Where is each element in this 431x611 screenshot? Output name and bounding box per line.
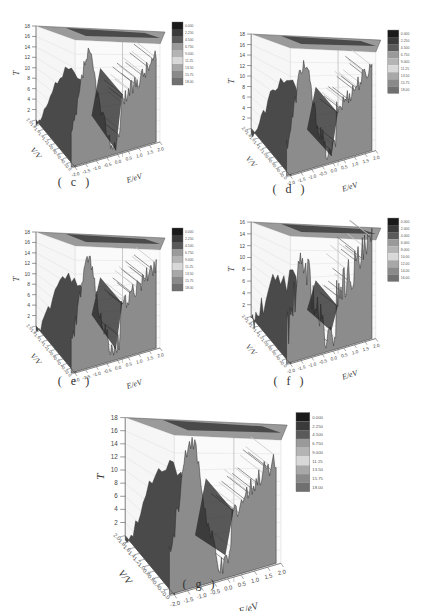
- svg-text:9.000: 9.000: [185, 258, 194, 262]
- svg-text:12: 12: [24, 54, 30, 60]
- svg-text:T: T: [11, 70, 21, 76]
- svg-text:-1.5: -1.5: [82, 168, 91, 175]
- svg-text:4: 4: [27, 302, 30, 308]
- svg-text:15.75: 15.75: [185, 73, 194, 77]
- svg-text:0.5: 0.5: [341, 352, 349, 358]
- svg-text:1.5: 1.5: [362, 158, 370, 164]
- panel-caption-e: ( e ): [50, 374, 100, 389]
- svg-text:10: 10: [240, 254, 246, 260]
- svg-text:0.0: 0.0: [115, 365, 123, 371]
- svg-text:V/V: V/V: [28, 352, 43, 368]
- svg-text:2.0: 2.0: [157, 352, 165, 358]
- svg-text:13.50: 13.50: [312, 467, 323, 472]
- surface-plot-d: 24681012141618T-2.0-1.5-1.0-0.50.00.51.0…: [215, 20, 431, 202]
- svg-text:-1.0: -1.0: [196, 592, 207, 600]
- svg-text:8.000: 8.000: [401, 248, 410, 252]
- svg-text:11.25: 11.25: [312, 459, 323, 464]
- svg-text:2: 2: [27, 313, 30, 319]
- svg-text:1.5: 1.5: [146, 149, 154, 155]
- svg-text:13.50: 13.50: [401, 74, 410, 78]
- svg-text:2.0: 2.0: [277, 569, 286, 577]
- svg-text:6.750: 6.750: [185, 45, 194, 49]
- svg-text:0.0: 0.0: [330, 355, 338, 361]
- svg-text:10: 10: [24, 271, 30, 277]
- svg-text:12: 12: [111, 453, 118, 460]
- svg-text:V/V: V/V: [244, 154, 259, 170]
- svg-text:18: 18: [240, 31, 246, 37]
- chart-panel-g: 24681012141618T-2.0-1.5-1.0-0.50.00.51.0…: [80, 400, 350, 580]
- svg-text:9.000: 9.000: [312, 450, 323, 455]
- svg-text:12.00: 12.00: [401, 262, 410, 266]
- svg-text:12: 12: [240, 243, 246, 249]
- svg-text:16: 16: [111, 427, 118, 434]
- svg-text:2.0: 2.0: [373, 343, 381, 349]
- svg-text:14: 14: [240, 231, 246, 237]
- svg-text:10: 10: [240, 73, 246, 79]
- svg-text:12: 12: [240, 63, 246, 69]
- svg-text:4.500: 4.500: [185, 38, 194, 42]
- svg-text:10: 10: [111, 466, 118, 473]
- svg-text:4: 4: [114, 505, 118, 512]
- colorbar-legend: 0.0002.2504.5006.7509.00011.2513.5015.75…: [296, 413, 324, 492]
- svg-text:16: 16: [240, 219, 246, 225]
- svg-text:4.000: 4.000: [401, 234, 410, 238]
- svg-text:6.750: 6.750: [312, 441, 323, 446]
- svg-text:1.0: 1.0: [251, 576, 260, 584]
- svg-text:-0.5: -0.5: [319, 170, 328, 177]
- svg-text:6: 6: [242, 278, 245, 284]
- svg-text:4: 4: [27, 96, 30, 102]
- chart-panel-e: 24681012141618T-2.0-1.5-1.0-0.50.00.51.0…: [0, 218, 215, 398]
- svg-text:18: 18: [24, 229, 30, 235]
- svg-text:0.5: 0.5: [125, 155, 133, 161]
- svg-text:-0.5: -0.5: [103, 368, 112, 375]
- svg-text:-1.0: -1.0: [93, 165, 102, 172]
- svg-text:0.0: 0.0: [224, 584, 233, 592]
- svg-text:8: 8: [242, 84, 245, 90]
- chart-panel-d: 24681012141618T-2.0-1.5-1.0-0.50.00.51.0…: [215, 20, 431, 202]
- svg-text:8: 8: [114, 479, 118, 486]
- svg-text:14: 14: [24, 44, 30, 50]
- svg-text:15.75: 15.75: [312, 476, 323, 481]
- svg-text:1.0: 1.0: [351, 349, 359, 355]
- svg-text:1.5: 1.5: [362, 346, 370, 352]
- svg-text:-2.0: -2.0: [170, 600, 181, 608]
- panel-caption-c: ( c ): [50, 175, 100, 190]
- colorbar-legend: 0.0002.2504.5006.7509.00011.2513.5015.75…: [172, 22, 194, 85]
- svg-text:11.25: 11.25: [401, 67, 409, 71]
- surface-plot-g: 24681012141618T-2.0-1.5-1.0-0.50.00.51.0…: [80, 400, 350, 580]
- svg-text:14: 14: [111, 440, 118, 447]
- panel-caption-f: ( f ): [265, 374, 315, 389]
- svg-text:-0.5: -0.5: [103, 162, 112, 169]
- svg-text:T: T: [226, 78, 236, 84]
- svg-text:8: 8: [27, 75, 30, 81]
- panel-caption-g: ( g ): [175, 577, 225, 592]
- colorbar-legend: 0.0002.2504.5006.7509.00011.2513.5015.75…: [172, 228, 194, 291]
- svg-text:15.75: 15.75: [185, 279, 194, 283]
- svg-text:0.000: 0.000: [401, 220, 410, 224]
- svg-text:9.000: 9.000: [185, 52, 194, 56]
- svg-text:4: 4: [242, 290, 245, 296]
- svg-text:6.750: 6.750: [185, 251, 194, 255]
- svg-text:6: 6: [242, 94, 245, 100]
- svg-text:T: T: [226, 266, 236, 272]
- svg-text:4.500: 4.500: [401, 46, 410, 50]
- svg-text:V/V: V/V: [244, 342, 259, 358]
- svg-text:13.50: 13.50: [185, 66, 194, 70]
- svg-text:11.25: 11.25: [185, 59, 193, 63]
- svg-text:18.00: 18.00: [401, 88, 410, 92]
- svg-text:0.000: 0.000: [185, 24, 194, 28]
- svg-text:14: 14: [24, 250, 30, 256]
- svg-text:-0.5: -0.5: [319, 358, 328, 365]
- svg-text:9.000: 9.000: [401, 60, 410, 64]
- svg-text:T: T: [94, 473, 106, 480]
- svg-text:1.0: 1.0: [351, 161, 359, 167]
- svg-text:2.0: 2.0: [373, 155, 381, 161]
- svg-text:0.5: 0.5: [237, 580, 246, 588]
- svg-text:18: 18: [24, 23, 30, 29]
- svg-text:-1.0: -1.0: [308, 173, 317, 180]
- svg-text:2: 2: [27, 107, 30, 113]
- svg-text:E/eV: E/eV: [236, 600, 261, 611]
- svg-text:18.00: 18.00: [185, 80, 194, 84]
- svg-text:V/V: V/V: [28, 146, 43, 162]
- svg-text:1.5: 1.5: [264, 572, 273, 580]
